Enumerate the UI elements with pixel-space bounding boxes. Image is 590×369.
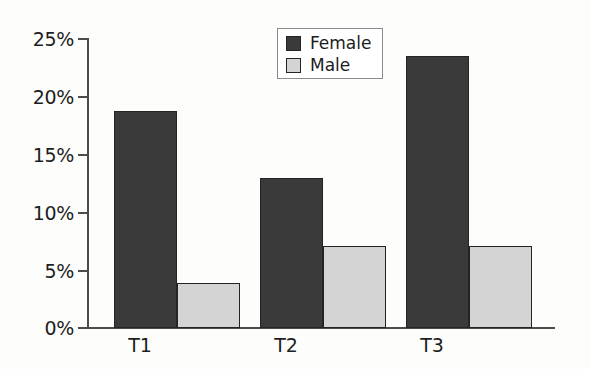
bar-t2-male[interactable] bbox=[323, 246, 386, 328]
bar-t1-female[interactable] bbox=[114, 111, 177, 328]
y-axis-label-25: 25% bbox=[12, 28, 74, 50]
light-swatch-icon bbox=[286, 58, 301, 73]
y-axis-label-0-wrap: 0% bbox=[0, 317, 74, 339]
legend-item-male[interactable]: Male bbox=[286, 55, 382, 76]
bar-t2-female[interactable] bbox=[260, 178, 323, 328]
legend-item-female[interactable]: Female bbox=[286, 33, 382, 54]
y-axis-label-15: 15% bbox=[12, 144, 74, 166]
x-axis-label-t1: T1 bbox=[95, 334, 185, 356]
x-axis-label-t3: T3 bbox=[387, 334, 477, 356]
y-axis-label-20-wrap: 20% bbox=[0, 86, 74, 108]
chart-legend: Female Male bbox=[277, 28, 383, 79]
y-axis-label-25-wrap: 25% bbox=[0, 28, 74, 50]
y-axis-label-0: 0% bbox=[12, 317, 74, 339]
dark-swatch-icon bbox=[286, 36, 301, 51]
plot-area bbox=[88, 39, 550, 328]
bar-t3-male[interactable] bbox=[469, 246, 532, 328]
bar-t1-male[interactable] bbox=[177, 283, 240, 328]
y-axis-label-15-wrap: 15% bbox=[0, 144, 74, 166]
y-axis-label-5: 5% bbox=[12, 260, 74, 282]
bar-t3-female[interactable] bbox=[406, 56, 469, 328]
y-axis-label-20: 20% bbox=[12, 86, 74, 108]
y-axis-label-5-wrap: 5% bbox=[0, 260, 74, 282]
y-axis-label-10-wrap: 10% bbox=[0, 202, 74, 224]
legend-label-male: Male bbox=[310, 57, 350, 74]
bar-chart: 25% 20% 15% 10% 5% 0% T1 T2 T3 Female bbox=[0, 0, 590, 369]
x-axis-label-t2: T2 bbox=[241, 334, 331, 356]
y-axis-label-10: 10% bbox=[12, 202, 74, 224]
legend-label-female: Female bbox=[310, 35, 371, 52]
